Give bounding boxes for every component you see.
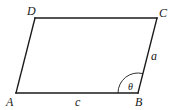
side-da [16, 18, 35, 93]
angle-label-theta: θ [128, 81, 133, 92]
vertex-label-d: D [26, 4, 36, 18]
vertex-label-a: A [5, 95, 14, 109]
vertex-label-c: C [159, 6, 168, 20]
side-label-c: c [75, 95, 81, 109]
side-label-a: a [151, 49, 157, 63]
vertex-label-b: B [135, 95, 143, 109]
parallelogram-diagram: D C A B c a θ [0, 0, 178, 110]
